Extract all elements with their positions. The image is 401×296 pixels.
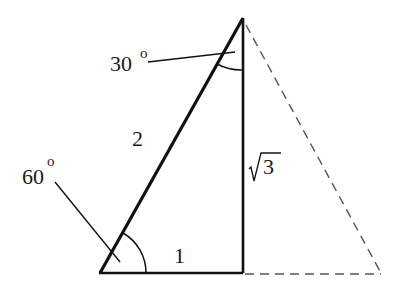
- diagram-svg: [0, 0, 401, 296]
- hypotenuse-label: 2: [132, 128, 143, 150]
- angle-60-label: 60: [22, 166, 44, 188]
- angle-30-label: 30: [110, 53, 132, 75]
- angle-30-arc: [217, 64, 243, 70]
- long-leg-label: 3: [263, 156, 274, 178]
- short-leg-label: 1: [174, 245, 185, 267]
- angle-30-degree-symbol: o: [140, 46, 148, 61]
- triangle-diagram: 30 o 60 o 2 1 3: [0, 0, 401, 296]
- angle-60-degree-symbol: o: [47, 154, 55, 169]
- dashed-side-line: [246, 25, 381, 273]
- angle-60-leader: [55, 182, 120, 262]
- angle-60-arc: [123, 233, 146, 273]
